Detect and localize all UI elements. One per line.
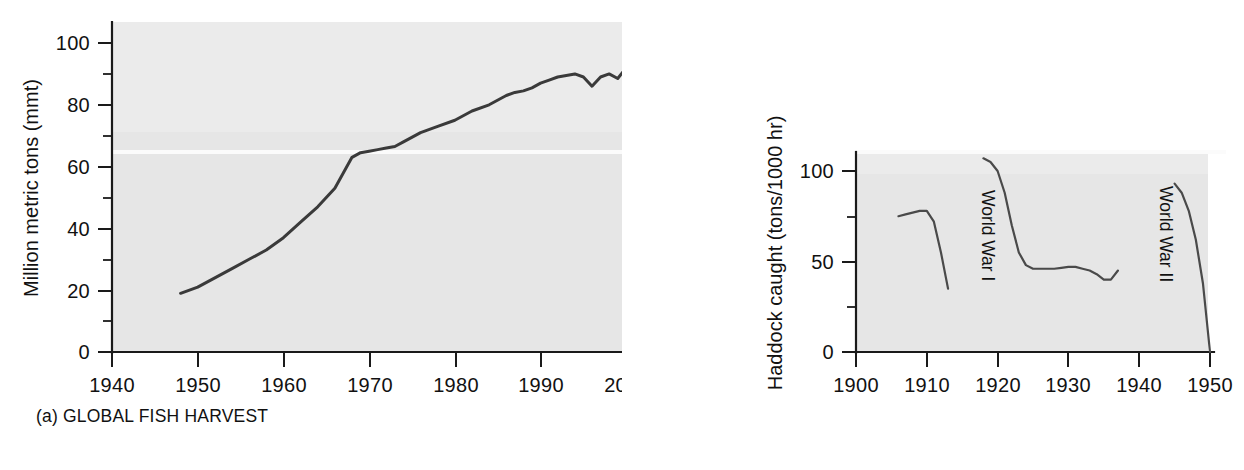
caption-panel-a: (a) GLOBAL FISH HARVEST [36, 406, 268, 427]
y-ticklabel-a-2: 40 [67, 218, 90, 240]
x-ticklabel-a-4: 1980 [433, 374, 479, 396]
x-ticklabel-b-2: 1920 [975, 374, 1021, 396]
x-ticklabel-a-1: 1950 [175, 374, 221, 396]
x-ticklabel-a-3: 1970 [347, 374, 393, 396]
y-ticklabel-b-1: 50 [811, 251, 834, 273]
x-ticklabel-a-2: 1960 [261, 374, 307, 396]
y-axis-title-b: Haddock caught (tons/1000 hr) [764, 116, 786, 391]
x-ticklabel-a-6: 2000 [604, 374, 622, 396]
y-ticklabel-b-0: 0 [823, 341, 834, 363]
panel-haddock-catch: 100 50 0 1900 1910 1920 1930 1940 1950 H… [622, 0, 1244, 470]
y-ticklabel-a-0: 0 [79, 341, 90, 363]
figure-two-panel-fisheries: 100 80 60 40 20 0 1940 1950 1960 1970 19… [0, 0, 1244, 470]
x-ticklabel-b-0: 1900 [833, 374, 879, 396]
x-ticklabel-b-4: 1940 [1116, 374, 1162, 396]
plot-background-b-top [856, 152, 1208, 174]
x-ticklabel-a-0: 1940 [89, 374, 135, 396]
y-ticklabel-a-3: 60 [67, 156, 90, 178]
paper-seam-b [856, 150, 1226, 154]
y-ticklabel-a-4: 80 [67, 94, 90, 116]
y-ticklabel-b-2: 100 [800, 160, 834, 182]
y-ticklabel-a-1: 20 [67, 280, 90, 302]
chart-b-svg: 100 50 0 1900 1910 1920 1930 1940 1950 H… [622, 0, 1244, 400]
y-ticklabel-a-5: 100 [56, 32, 90, 54]
x-ticklabel-b-1: 1910 [904, 374, 950, 396]
annotation-world-war-i: World War I [978, 190, 998, 281]
panel-global-fish-harvest: 100 80 60 40 20 0 1940 1950 1960 1970 19… [0, 0, 622, 470]
chart-a-svg: 100 80 60 40 20 0 1940 1950 1960 1970 19… [0, 0, 622, 400]
plot-background-b [856, 152, 1208, 352]
y-axis-title-a: Million metric tons (mmt) [20, 79, 42, 297]
plot-background-a-top [112, 22, 622, 132]
annotation-world-war-ii: World War II [1156, 186, 1176, 282]
x-ticklabel-b-5: 1950 [1187, 374, 1233, 396]
x-ticklabel-b-3: 1930 [1045, 374, 1091, 396]
x-ticklabel-a-5: 1990 [518, 374, 564, 396]
